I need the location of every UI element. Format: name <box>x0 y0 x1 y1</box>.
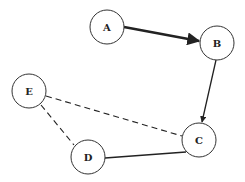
graph-diagram: A B C D E <box>0 0 245 182</box>
node-e: E <box>12 74 46 108</box>
node-d: D <box>71 140 105 174</box>
node-a: A <box>90 10 124 44</box>
edge-a-b <box>124 27 199 41</box>
node-b: B <box>200 26 234 60</box>
node-b-label: B <box>213 38 221 49</box>
edge-e-c <box>46 96 182 136</box>
edge-b-c <box>202 60 216 122</box>
node-a-label: A <box>102 22 111 33</box>
edge-d-c <box>105 152 186 158</box>
node-c-label: C <box>195 135 203 146</box>
node-d-label: D <box>84 152 93 163</box>
node-c: C <box>182 123 216 157</box>
node-e-label: E <box>25 86 33 97</box>
edge-e-d <box>41 105 74 145</box>
